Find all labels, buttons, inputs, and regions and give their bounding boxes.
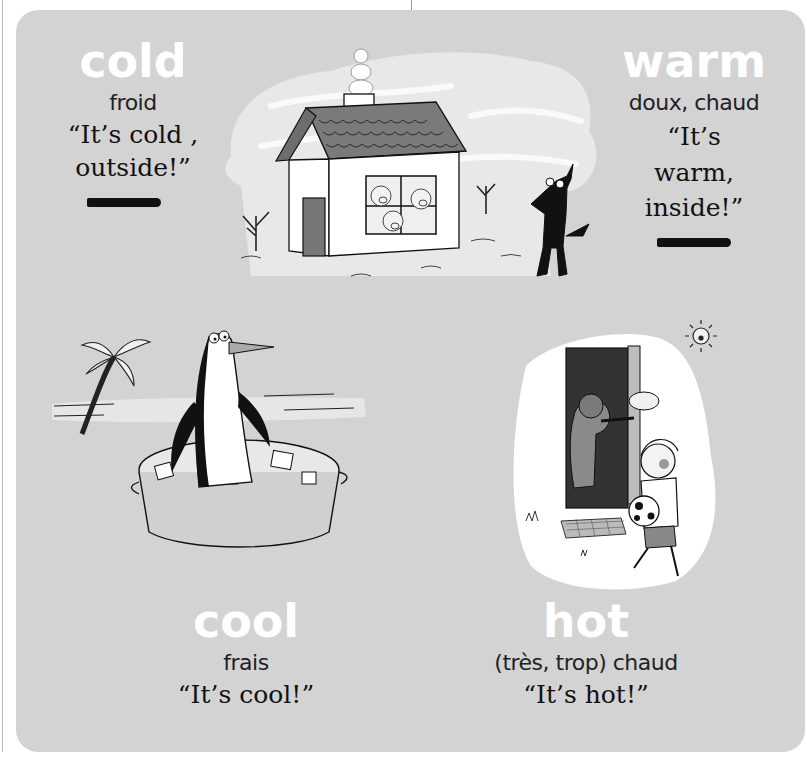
quote-cold-line1: “It’s cold , bbox=[28, 119, 238, 152]
word-warm: warm bbox=[594, 38, 794, 84]
hot-scene-icon bbox=[496, 306, 746, 596]
penguin-scene-icon bbox=[34, 312, 379, 562]
sun-icon bbox=[685, 320, 717, 352]
quote-cool: “It’s cool!” bbox=[96, 679, 396, 712]
house-scene-icon bbox=[211, 36, 611, 291]
word-hot: hot bbox=[426, 598, 746, 644]
card-hot: hot (très, trop) chaud “It’s hot!” bbox=[426, 598, 746, 712]
card-cool: cool frais “It’s cool!” bbox=[96, 598, 396, 712]
illustration-boy-door bbox=[496, 306, 746, 596]
word-cold: cold bbox=[28, 38, 238, 84]
card-cold: cold froid “It’s cold , outside!” bbox=[28, 38, 238, 207]
quote-cold-line2: outside!” bbox=[28, 152, 238, 185]
quote-warm-line3: inside!” bbox=[594, 190, 794, 226]
french-hot: (très, trop) chaud bbox=[426, 650, 746, 675]
divider-rule-warm bbox=[657, 238, 731, 247]
vocabulary-panel: cold froid “It’s cold , outside!” warm d… bbox=[16, 10, 805, 752]
illustration-penguin bbox=[34, 312, 379, 562]
quote-warm-line2: warm, bbox=[594, 155, 794, 191]
quote-hot: “It’s hot!” bbox=[426, 679, 746, 712]
divider-rule-cold bbox=[87, 198, 161, 207]
french-warm: doux, chaud bbox=[594, 90, 794, 115]
page-edge-line bbox=[2, 0, 3, 752]
french-cool: frais bbox=[96, 650, 396, 675]
french-cold: froid bbox=[28, 90, 238, 115]
illustration-house-wolf bbox=[211, 36, 611, 291]
quote-warm-line1: “It’s bbox=[594, 119, 794, 155]
word-cool: cool bbox=[96, 598, 396, 644]
card-warm: warm doux, chaud “It’s warm, inside!” bbox=[594, 38, 794, 247]
